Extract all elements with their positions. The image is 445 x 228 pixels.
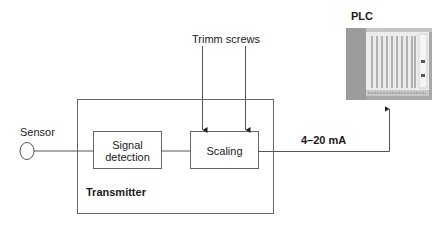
output-signal-label: 4–20 mA	[301, 134, 346, 146]
sensor-label: Sensor	[20, 126, 55, 138]
sensor-icon	[20, 143, 34, 160]
scaling-label: Scaling	[190, 145, 259, 157]
plc-label: PLC	[351, 10, 373, 22]
signal-detection-label-line2: detection	[93, 151, 162, 163]
transmitter-label: Transmitter	[86, 186, 146, 198]
trimm-screws-label: Trimm screws	[186, 33, 266, 45]
plc-rack-icon	[346, 28, 432, 100]
signal-detection-label: Signal detection	[93, 139, 162, 163]
signal-detection-label-line1: Signal	[93, 139, 162, 151]
